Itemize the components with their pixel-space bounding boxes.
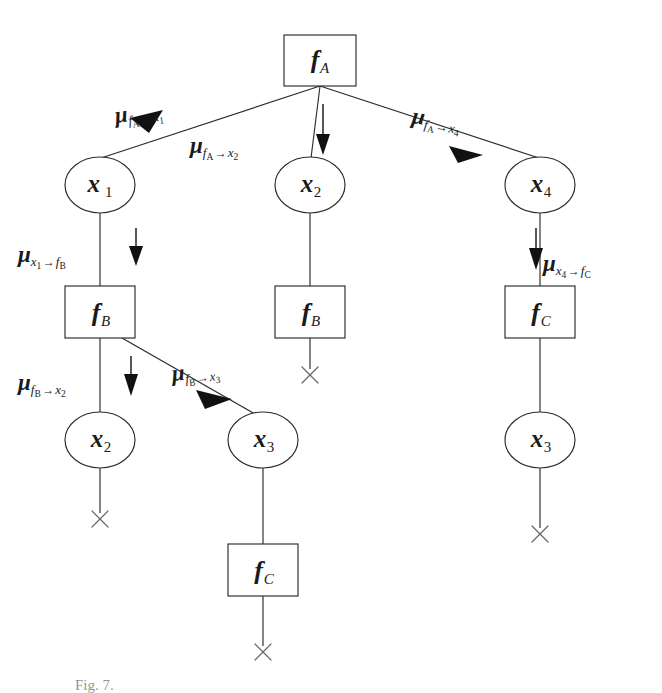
- variable-node-x3-middle: [228, 412, 298, 468]
- message-arrow-x4-fC: [529, 228, 543, 270]
- factor-node-fA: [284, 35, 356, 86]
- terminator-x-icon-x3-right: [532, 526, 548, 542]
- variable-node-x2-bottom: [65, 412, 135, 468]
- factor-node-fB-left: [65, 286, 135, 338]
- edge-fA-x2top: [311, 86, 320, 158]
- message-arrow-x1-fB: [129, 228, 143, 266]
- variable-node-x2-top: [275, 157, 345, 213]
- factor-node-fC-right: [505, 286, 575, 338]
- terminator-x-icon-fB-middle: [302, 367, 318, 383]
- edge-fA-x4: [320, 86, 539, 158]
- terminator-x-icon-x2-bottom: [92, 511, 108, 527]
- message-arrow-fA-x1: [130, 110, 163, 133]
- message-arrow-fA-x4: [449, 146, 483, 163]
- variable-node-x4: [505, 157, 575, 213]
- message-arrow-layer: [124, 104, 543, 409]
- message-arrow-fA-x2: [316, 104, 330, 155]
- factor-node-fC-bottom: [228, 544, 298, 596]
- edge-fA-x1: [101, 86, 320, 158]
- factor-node-fB-middle: [275, 286, 345, 338]
- variable-node-x3-right: [505, 412, 575, 468]
- terminator-layer: [92, 367, 548, 660]
- message-arrow-fB-x3: [196, 390, 232, 409]
- variable-node-x1: [65, 157, 135, 213]
- terminator-x-icon-fC-bottom: [255, 644, 271, 660]
- message-arrow-fB-x2: [124, 356, 138, 396]
- edge-fBl-x3mid: [122, 338, 255, 414]
